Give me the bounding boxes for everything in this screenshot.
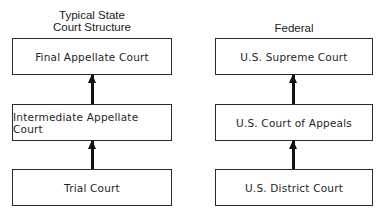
final-appellate-court-box: Final Appellate Court [12, 38, 172, 75]
federal-heading: Federal [215, 22, 373, 34]
box-label: U.S. Supreme Court [240, 51, 347, 63]
intermediate-appellate-court-box: Intermediate Appellate Court [12, 104, 172, 141]
us-district-court-box: U.S. District Court [215, 169, 373, 206]
arrow-up-icon [292, 75, 295, 104]
box-label: U.S. Court of Appeals [236, 117, 352, 129]
federal-heading-text: Federal [215, 22, 373, 34]
box-label: Trial Court [64, 182, 120, 194]
trial-court-box: Trial Court [12, 169, 172, 206]
box-label: Final Appellate Court [35, 51, 149, 63]
arrow-up-icon [292, 141, 295, 170]
state-heading: Typical State Court Structure [12, 9, 172, 33]
us-supreme-court-box: U.S. Supreme Court [215, 38, 373, 75]
box-label: Intermediate Appellate Court [13, 111, 171, 135]
arrow-up-icon [91, 141, 94, 170]
state-heading-line2: Court Structure [12, 21, 172, 33]
arrow-up-icon [91, 75, 94, 104]
state-heading-line1: Typical State [12, 9, 172, 21]
us-court-of-appeals-box: U.S. Court of Appeals [215, 104, 373, 141]
box-label: U.S. District Court [245, 182, 343, 194]
